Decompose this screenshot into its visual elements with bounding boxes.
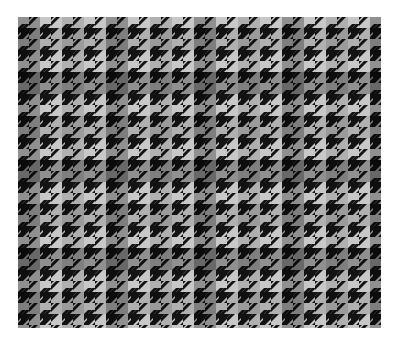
houndstooth-fabric-swatch <box>18 17 381 328</box>
houndstooth-pattern <box>18 17 381 328</box>
